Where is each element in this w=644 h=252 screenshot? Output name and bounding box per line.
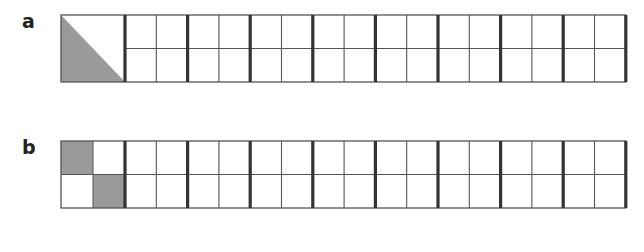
shaded-quarter — [93, 175, 125, 209]
figure-b-grid — [0, 0, 644, 252]
shaded-quarter — [61, 141, 93, 175]
figure-b-svg — [0, 0, 644, 252]
